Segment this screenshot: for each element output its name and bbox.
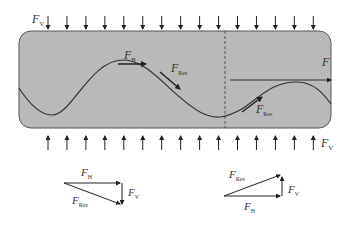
vector-triangle-right: FRes FV FH — [224, 168, 300, 214]
tri-left-fv-label: FV — [127, 186, 140, 200]
force-diagram: FV FH FRes F FRes FV FH FV FRes FRes FV … — [0, 0, 352, 229]
f-right-label: F — [321, 55, 330, 69]
tri-left-fres-label: FRes — [71, 194, 88, 208]
tri-left-fh-label: FH — [80, 166, 93, 180]
tri-right-fres-label: FRes — [228, 168, 245, 182]
vector-triangle-left: FH FV FRes — [64, 166, 140, 208]
bottom-vertical-force-arrows — [48, 136, 313, 150]
fv-bottom-label: FV — [320, 136, 333, 152]
tri-right-fv-label: FV — [287, 183, 300, 197]
tri-right-fh-label: FH — [243, 200, 256, 214]
top-vertical-force-arrows — [48, 16, 313, 29]
fv-top-label: FV — [31, 12, 44, 28]
